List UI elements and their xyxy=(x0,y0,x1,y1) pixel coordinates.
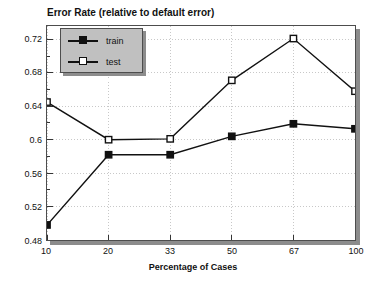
legend-item-train: train xyxy=(61,31,144,51)
x-tick-label: 67 xyxy=(289,246,299,256)
legend-label-train: train xyxy=(106,36,124,46)
x-tick-label: 50 xyxy=(227,246,237,256)
x-axis-tick-labels: 1020335067100 xyxy=(0,0,386,287)
x-tick-label: 33 xyxy=(165,246,175,256)
x-tick-label: 20 xyxy=(103,246,113,256)
legend-swatch-train-icon xyxy=(66,34,100,48)
legend-item-test: test xyxy=(61,52,144,72)
x-tick-label: 100 xyxy=(348,246,363,256)
chart-legend: train test xyxy=(60,28,143,73)
chart-container: Error Rate (relative to default error) 0… xyxy=(0,0,386,287)
legend-label-test: test xyxy=(106,57,121,67)
x-tick-label: 10 xyxy=(41,246,51,256)
legend-swatch-test-icon xyxy=(66,55,100,69)
x-axis-label: Percentage of Cases xyxy=(0,262,386,272)
